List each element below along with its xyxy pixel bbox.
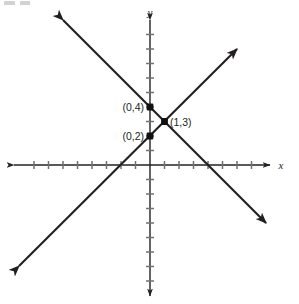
- coordinate-plane: (0,4) (0,2) (1,3) y x: [0, 0, 299, 304]
- axis-group: [14, 20, 270, 296]
- point-labels: (0,4) (0,2) (1,3): [122, 101, 191, 142]
- plotted-lines: [19, 20, 266, 266]
- point-0-2-dot: [147, 133, 154, 140]
- point-0-4-label: (0,4): [122, 101, 144, 113]
- axis-name-labels: y x: [147, 6, 284, 171]
- x-axis-label: x: [278, 159, 284, 171]
- point-0-4-dot: [147, 104, 154, 111]
- point-1-3-dot: [161, 118, 168, 125]
- graph-figure: (0,4) (0,2) (1,3) y x: [0, 0, 299, 304]
- line-increasing: [19, 49, 237, 266]
- y-axis-label: y: [147, 6, 153, 18]
- point-1-3-label: (1,3): [170, 116, 192, 128]
- point-0-2-label: (0,2): [122, 130, 144, 142]
